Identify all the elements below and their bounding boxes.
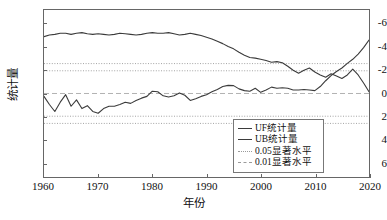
x-tick-mark-1 bbox=[98, 174, 99, 178]
y-tick-label-0: 6 bbox=[349, 158, 387, 169]
y-tick-label-4: -2 bbox=[349, 64, 387, 75]
y-tick-mark-0 bbox=[43, 164, 47, 165]
x-tick-label-6: 2020 bbox=[359, 181, 381, 192]
x-tick-label-4: 2000 bbox=[250, 181, 272, 192]
legend-item-alpha005: 0.05显著水平 bbox=[237, 146, 320, 157]
legend-label-ub: UB统计量 bbox=[255, 134, 298, 145]
x-tick-label-2: 1980 bbox=[141, 181, 163, 192]
y-axis-title: 统计量 bbox=[7, 50, 20, 120]
series-line-ub bbox=[44, 33, 369, 92]
legend-label-alpha001: 0.01显著水平 bbox=[255, 157, 312, 168]
legend-line-icon-ub bbox=[237, 135, 252, 144]
y-tick-mark-3 bbox=[43, 94, 47, 95]
y-tick-mark-2 bbox=[43, 117, 47, 118]
y-tick-mark-1 bbox=[43, 140, 47, 141]
x-axis-title: 年份 bbox=[0, 197, 387, 210]
legend-item-alpha001: 0.01显著水平 bbox=[237, 157, 320, 168]
x-tick-mark-5 bbox=[316, 174, 317, 178]
x-tick-mark-2 bbox=[152, 174, 153, 178]
chart-legend: UF统计量 UB统计量 0.05显著水平 0.01显著水平 bbox=[233, 119, 324, 173]
y-tick-label-5: -4 bbox=[349, 41, 387, 52]
mann-kendall-chart-figure: 6420-2-4-6 1960197019801990200020102020 … bbox=[0, 0, 387, 220]
y-tick-label-3: 0 bbox=[349, 88, 387, 99]
legend-label-uf: UF统计量 bbox=[255, 123, 297, 134]
y-tick-mark-5 bbox=[43, 47, 47, 48]
legend-item-ub: UB统计量 bbox=[237, 134, 320, 145]
x-tick-label-5: 2010 bbox=[305, 181, 327, 192]
x-tick-label-1: 1970 bbox=[87, 181, 109, 192]
y-tick-label-2: 2 bbox=[349, 111, 387, 122]
y-tick-mark-4 bbox=[43, 70, 47, 71]
x-tick-label-0: 1960 bbox=[32, 181, 54, 192]
legend-line-icon-uf bbox=[237, 124, 252, 133]
x-tick-mark-4 bbox=[261, 174, 262, 178]
legend-line-icon-alpha005 bbox=[237, 147, 252, 156]
legend-item-uf: UF统计量 bbox=[237, 123, 320, 134]
reference-lines-group bbox=[44, 64, 369, 124]
x-tick-mark-6 bbox=[370, 174, 371, 178]
series-group bbox=[44, 33, 369, 114]
x-tick-label-3: 1990 bbox=[196, 181, 218, 192]
x-tick-mark-3 bbox=[207, 174, 208, 178]
series-line-uf bbox=[44, 40, 369, 113]
y-tick-label-6: -6 bbox=[349, 17, 387, 28]
legend-line-icon-alpha001 bbox=[237, 158, 252, 167]
x-tick-mark-0 bbox=[43, 174, 44, 178]
y-tick-mark-6 bbox=[43, 23, 47, 24]
legend-label-alpha005: 0.05显著水平 bbox=[255, 146, 312, 157]
y-tick-label-1: 4 bbox=[349, 134, 387, 145]
